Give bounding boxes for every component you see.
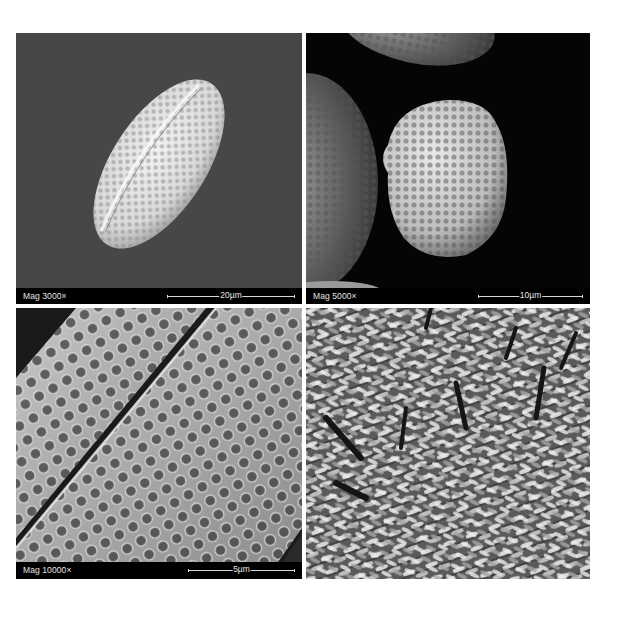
magnification-label-bar: Mag 3000× 20µm — [16, 288, 302, 304]
pollen-surface-closeup-image — [16, 308, 302, 579]
panel-bottom-left-sem: Mag 10000× 5µm — [16, 308, 302, 579]
scale-bar-label: 5µm — [232, 564, 251, 574]
magnification-text: Mag 10000× — [23, 565, 72, 575]
pollen-grain-spheroid-image — [306, 33, 590, 304]
plant-foliage-photo — [306, 308, 590, 579]
scale-bar: 10µm — [478, 296, 583, 297]
scale-bar-label: 20µm — [219, 290, 242, 300]
magnification-text: Mag 5000× — [313, 291, 357, 301]
panel-top-left-sem: Mag 3000× 20µm — [16, 33, 302, 304]
pollen-grain-ellipsoid-image — [16, 33, 302, 304]
scale-bar: 20µm — [167, 296, 295, 297]
panel-top-right-sem: Mag 5000× 10µm — [306, 33, 590, 304]
scale-bar-label: 10µm — [519, 290, 542, 300]
magnification-text: Mag 3000× — [23, 291, 67, 301]
scale-bar: 5µm — [188, 570, 295, 571]
magnification-label-bar: Mag 5000× 10µm — [306, 288, 590, 304]
magnification-label-bar: Mag 10000× 5µm — [16, 562, 302, 579]
panel-bottom-right-photo — [306, 308, 590, 579]
